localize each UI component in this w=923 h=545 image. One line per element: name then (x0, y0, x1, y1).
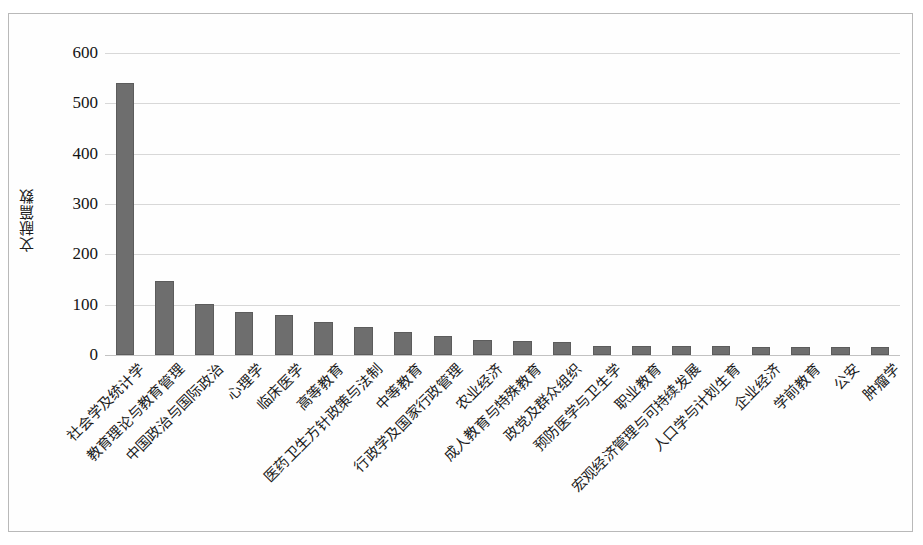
y-axis-tick-label: 200 (48, 244, 98, 264)
bar (473, 340, 491, 355)
bar (314, 322, 332, 355)
bar (195, 304, 213, 355)
bar (394, 332, 412, 355)
x-axis-tick-label: 肿瘤学 (857, 358, 903, 404)
bar (235, 312, 253, 355)
bar (672, 346, 690, 355)
bar (871, 347, 889, 355)
y-axis-tick-label: 300 (48, 194, 98, 214)
bar (791, 347, 809, 355)
bar (354, 327, 372, 355)
y-axis-tick-label: 400 (48, 144, 98, 164)
bar (593, 346, 611, 355)
gridline (105, 355, 900, 356)
bar (434, 336, 452, 355)
y-axis-tick-label: 500 (48, 93, 98, 113)
bar (116, 83, 134, 355)
bar (712, 346, 730, 355)
y-axis-tick-label: 100 (48, 295, 98, 315)
bar (155, 281, 173, 355)
bar (632, 346, 650, 355)
x-axis-tick-labels: 社会学及统计学教育理论与教育管理中国政治与国际政治心理学临床医学高等教育医药卫生… (105, 358, 900, 538)
y-axis-tick-label: 600 (48, 43, 98, 63)
bar-series (105, 53, 900, 355)
bar (513, 341, 531, 355)
bar-chart-figure: 文献篇数 0100200300400500600 社会学及统计学教育理论与教育管… (0, 0, 923, 545)
bar (831, 347, 849, 355)
y-axis-title: 文献篇数 (14, 155, 40, 285)
y-axis-tick-label: 0 (48, 345, 98, 365)
bar (553, 342, 571, 355)
bar (275, 315, 293, 355)
bar (752, 347, 770, 355)
